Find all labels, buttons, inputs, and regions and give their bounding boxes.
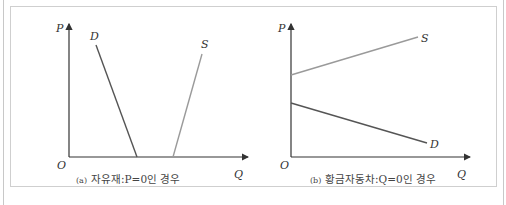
x-axis-label-b: Q xyxy=(457,168,466,181)
x-axis-label-a: Q xyxy=(234,168,243,181)
y-axis-label-a: P xyxy=(55,22,64,35)
panel-a: P O Q D S (a) 자유재:P=0인 경우 xyxy=(55,22,248,185)
caption-b: 황금자동차:Q=0인 경우 xyxy=(325,173,436,185)
y-axis-label-b: P xyxy=(277,22,286,35)
demand-label-a: D xyxy=(89,30,99,43)
origin-label-b: O xyxy=(280,159,289,172)
supply-curve-a xyxy=(173,54,202,157)
supply-curve-b xyxy=(291,37,418,75)
caption-prefix-b: (b) xyxy=(310,176,321,185)
panel-b: P O Q S D (b) 황금자동차:Q=0인 경우 xyxy=(277,22,470,185)
caption-prefix-a: (a) xyxy=(76,176,87,185)
supply-label-a: S xyxy=(201,38,209,51)
demand-curve-b xyxy=(291,103,427,143)
origin-label-a: O xyxy=(57,159,66,172)
supply-label-b: S xyxy=(421,32,429,45)
diagram-canvas: P O Q D S (a) 자유재:P=0인 경우 P O Q S D (b) … xyxy=(0,0,506,205)
demand-curve-a xyxy=(96,45,137,157)
caption-a: 자유재:P=0인 경우 xyxy=(91,173,180,185)
demand-label-b: D xyxy=(429,138,439,151)
